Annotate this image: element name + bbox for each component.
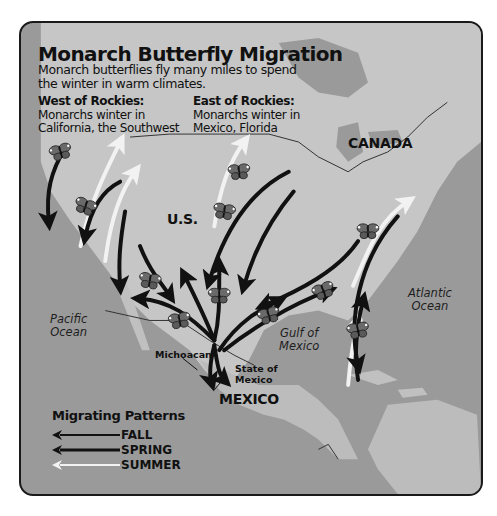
spring-arrow-icon [52,445,120,455]
gulf-line1: Gulf of [279,327,319,340]
label-state-of-mexico: State of Mexico [235,364,278,385]
pacific-line2: Ocean [50,326,87,339]
legend-item-spring: SPRING [52,442,185,457]
legend-item-summer: SUMMER [52,457,185,472]
west-heading: West of Rockies: [38,95,179,109]
label-pacific-ocean: Pacific Ocean [50,313,87,338]
label-canada: CANADA [348,135,412,151]
label-gulf-of-mexico: Gulf of Mexico [279,327,319,352]
map-subtitle: Monarch butterflies fly many miles to sp… [38,63,318,91]
legend-label-fall: FALL [121,428,152,442]
label-michoacan: Michoacan [155,350,212,361]
gulf-line2: Mexico [279,340,319,353]
atlantic-line1: Atlantic [408,287,452,300]
pacific-line1: Pacific [50,313,87,326]
east-of-rockies-note: East of Rockies: Monarchs winter in Mexi… [193,95,300,136]
west-of-rockies-note: West of Rockies: Monarchs winter in Cali… [38,95,179,136]
state-of-mexico-line2: Mexico [235,375,278,386]
west-line1: Monarchs winter in [38,109,179,123]
map-frame: Monarch Butterfly Migration Monarch butt… [19,21,483,496]
legend: Migrating Patterns FALL SPRING SUMMER [52,408,185,472]
label-atlantic-ocean: Atlantic Ocean [408,287,452,312]
legend-label-summer: SUMMER [121,458,181,472]
state-of-mexico-line1: State of [235,364,278,375]
east-line2: Mexico, Florida [193,122,300,136]
east-heading: East of Rockies: [193,95,300,109]
legend-title: Migrating Patterns [52,408,185,423]
west-line2: California, the Southwest [38,122,179,136]
legend-item-fall: FALL [52,427,185,442]
atlantic-line2: Ocean [408,300,452,313]
label-mexico: MEXICO [219,391,279,407]
east-line1: Monarchs winter in [193,109,300,123]
summer-arrow-icon [52,460,120,470]
legend-label-spring: SPRING [121,443,172,457]
fall-arrow-icon [52,430,120,440]
label-us: U.S. [167,211,198,227]
